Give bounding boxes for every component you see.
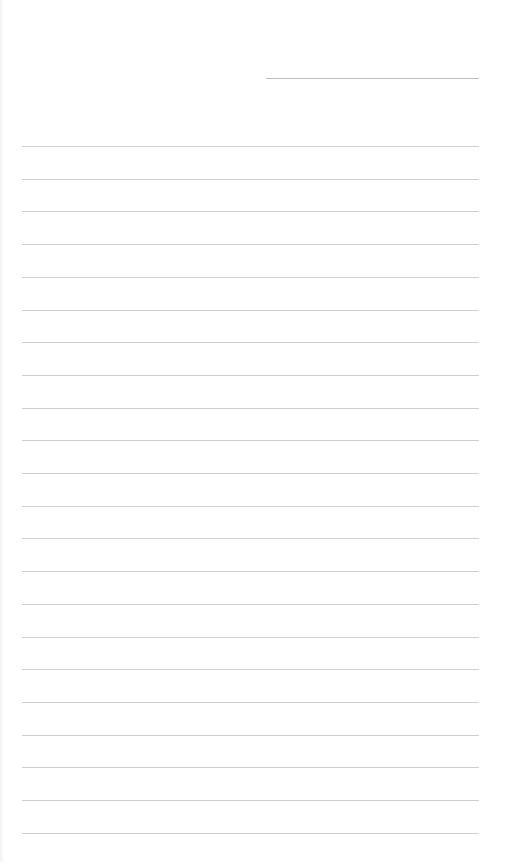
ruled-line [22, 669, 479, 670]
ruled-line [22, 506, 479, 507]
ruled-line [22, 211, 479, 212]
ruled-line [22, 244, 479, 245]
ruled-line [22, 538, 479, 539]
ruled-line [22, 833, 479, 834]
ruled-line [22, 440, 479, 441]
ruled-line [22, 408, 479, 409]
ruled-line [22, 637, 479, 638]
ruled-lines-area [0, 0, 511, 862]
ruled-line [22, 735, 479, 736]
ruled-line [22, 767, 479, 768]
ruled-line [22, 604, 479, 605]
ruled-line [22, 571, 479, 572]
ruled-line [22, 310, 479, 311]
ruled-line [22, 179, 479, 180]
ruled-line [22, 375, 479, 376]
ruled-line [22, 277, 479, 278]
ruled-line [22, 702, 479, 703]
ruled-line [22, 146, 479, 147]
ruled-line [22, 342, 479, 343]
ruled-line [22, 800, 479, 801]
ruled-line [22, 473, 479, 474]
